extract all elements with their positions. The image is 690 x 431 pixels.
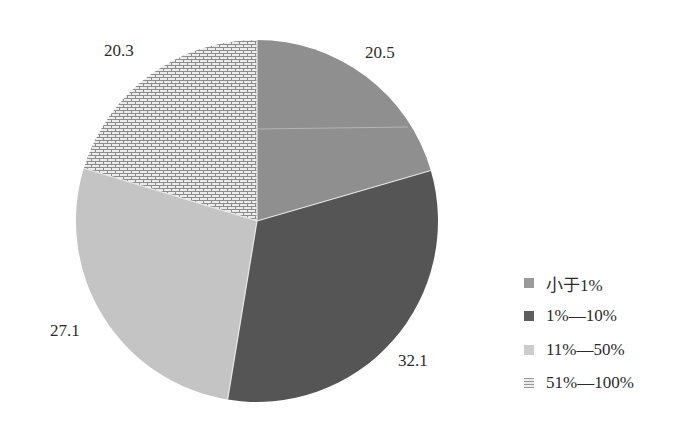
legend-item-less-than-1pct[interactable]: 小于1% <box>524 272 603 294</box>
legend-swatch-hatch-icon <box>524 378 534 388</box>
legend-swatch-icon <box>524 278 534 288</box>
data-label-51-to-100pct: 20.3 <box>104 42 134 59</box>
data-label-11-to-50pct: 27.1 <box>50 322 80 339</box>
legend-item-51-to-100pct[interactable]: 51%—100% <box>524 372 634 394</box>
legend-item-11-to-50pct[interactable]: 11%—50% <box>524 339 625 361</box>
data-label-1-to-10pct: 32.1 <box>398 352 428 369</box>
legend-swatch-icon <box>524 345 534 355</box>
legend-label: 11%—50% <box>546 340 625 360</box>
legend-label: 51%—100% <box>546 373 634 393</box>
legend-item-1-to-10pct[interactable]: 1%—10% <box>524 305 617 327</box>
data-label-less-than-1pct: 20.5 <box>365 44 395 61</box>
pie-slices <box>76 40 438 402</box>
legend-swatch-icon <box>524 311 534 321</box>
legend-label: 1%—10% <box>546 306 617 326</box>
legend-label: 小于1% <box>546 271 603 296</box>
pie-chart <box>0 0 690 431</box>
